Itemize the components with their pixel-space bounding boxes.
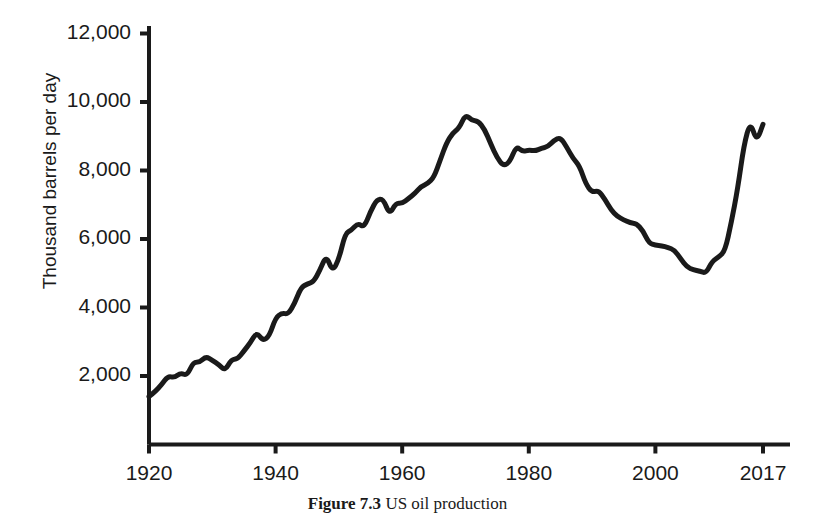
y-axis-title: Thousand barrels per day [39, 31, 61, 331]
x-tick-label: 1960 [357, 461, 447, 485]
y-tick-label: 2,000 [0, 362, 131, 386]
x-tick-label: 2000 [610, 461, 700, 485]
figure-caption: Figure 7.3 US oil production [0, 494, 815, 514]
data-series-line [149, 116, 763, 396]
figure-container: Thousand barrels per day 12,00010,0008,0… [0, 0, 815, 526]
x-tick-label: 1940 [231, 461, 321, 485]
axis-lines [149, 26, 790, 445]
chart-plot-area: Thousand barrels per day 12,00010,0008,0… [0, 0, 815, 490]
y-tick-label: 8,000 [0, 157, 131, 181]
y-tick-label: 6,000 [0, 225, 131, 249]
y-tick-label: 12,000 [0, 20, 131, 44]
figure-caption-label: Figure 7.3 [308, 494, 381, 513]
y-tick-label: 4,000 [0, 294, 131, 318]
x-tick-label: 2017 [718, 461, 808, 485]
x-tick-label: 1980 [484, 461, 574, 485]
y-tick-label: 10,000 [0, 88, 131, 112]
x-tick-label: 1920 [104, 461, 194, 485]
figure-caption-text: US oil production [385, 494, 507, 513]
